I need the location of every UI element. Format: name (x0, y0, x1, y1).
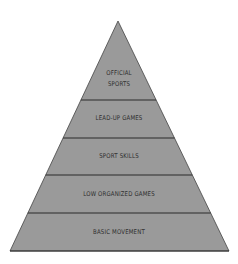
level-basic-movement: BASIC MOVEMENT (18, 228, 220, 237)
level-low-organized-games: LOW ORGANIZED GAMES (18, 190, 220, 199)
level-official-sports-line1: OFFICIAL (18, 69, 220, 78)
pyramid-body (10, 21, 229, 251)
level-lead-up-games: LEAD-UP GAMES (18, 114, 220, 123)
level-official-sports-line2: SPORTS (18, 80, 220, 89)
level-sport-skills: SPORT SKILLS (18, 152, 220, 161)
pyramid-diagram (0, 0, 238, 264)
